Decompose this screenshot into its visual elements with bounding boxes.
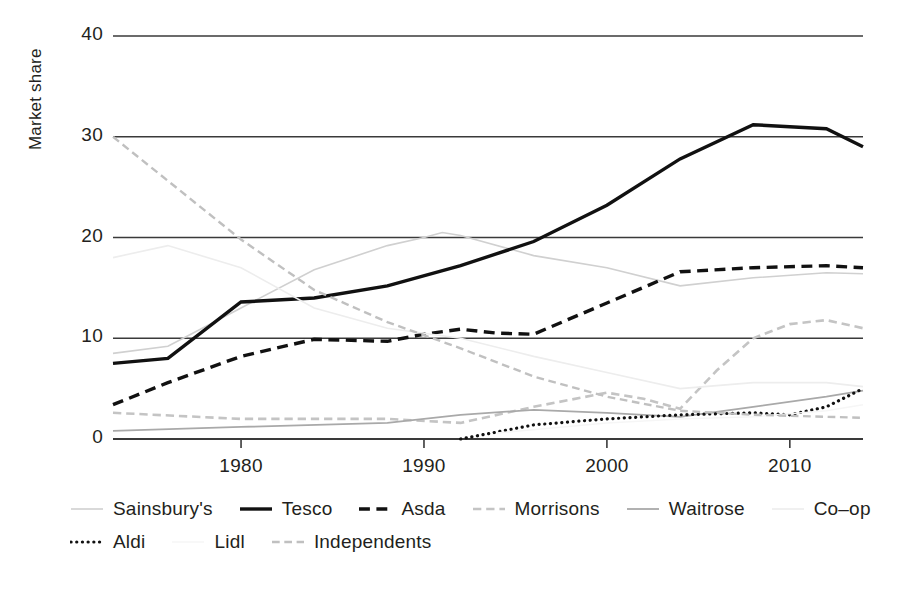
series-line-waitrose xyxy=(113,391,863,431)
legend-row: AldiLidlIndependents xyxy=(70,525,900,558)
legend-swatch-sainsbury-s-icon xyxy=(70,502,104,516)
legend-label-lidl: Lidl xyxy=(214,531,244,553)
legend-item-co-op[interactable]: Co–op xyxy=(771,498,871,520)
legend-swatch-morrisons-icon xyxy=(472,502,506,516)
legend-label-independents: Independents xyxy=(314,531,432,553)
series-line-asda xyxy=(113,266,863,405)
x-tick-label-2000: 2000 xyxy=(567,455,647,477)
legend-item-morrisons[interactable]: Morrisons xyxy=(472,498,600,520)
y-tick-label-40: 40 xyxy=(55,23,103,45)
legend-row: Sainsbury'sTescoAsdaMorrisonsWaitroseCo–… xyxy=(70,492,900,525)
market-share-line-chart: Market share 010203040 1980199020002010 … xyxy=(0,0,918,592)
x-tick-label-1990: 1990 xyxy=(384,455,464,477)
chart-legend: Sainsbury'sTescoAsdaMorrisonsWaitroseCo–… xyxy=(70,492,900,558)
y-tick-label-20: 20 xyxy=(55,225,103,247)
y-axis-label: Market share xyxy=(26,0,46,150)
x-axis-ticks xyxy=(241,439,790,448)
legend-label-morrisons: Morrisons xyxy=(515,498,600,520)
legend-label-sainsbury-s: Sainsbury's xyxy=(113,498,213,520)
legend-swatch-tesco-icon xyxy=(239,502,273,516)
legend-label-co-op: Co–op xyxy=(814,498,871,520)
legend-swatch-co-op-icon xyxy=(771,502,805,516)
legend-item-lidl[interactable]: Lidl xyxy=(171,531,244,553)
legend-label-aldi: Aldi xyxy=(113,531,145,553)
legend-item-aldi[interactable]: Aldi xyxy=(70,531,145,553)
legend-item-asda[interactable]: Asda xyxy=(358,498,445,520)
legend-item-sainsbury-s[interactable]: Sainsbury's xyxy=(70,498,213,520)
legend-item-tesco[interactable]: Tesco xyxy=(239,498,333,520)
legend-label-asda: Asda xyxy=(401,498,445,520)
legend-swatch-asda-icon xyxy=(358,502,392,516)
legend-swatch-independents-icon xyxy=(271,535,305,549)
series-line-sainsbury-s xyxy=(113,233,863,354)
series-layer xyxy=(113,125,863,439)
y-tick-label-30: 30 xyxy=(55,124,103,146)
legend-item-waitrose[interactable]: Waitrose xyxy=(626,498,745,520)
legend-swatch-lidl-icon xyxy=(171,535,205,549)
legend-item-independents[interactable]: Independents xyxy=(271,531,432,553)
legend-label-waitrose: Waitrose xyxy=(669,498,745,520)
y-tick-label-10: 10 xyxy=(55,325,103,347)
x-tick-label-2010: 2010 xyxy=(750,455,830,477)
legend-swatch-aldi-icon xyxy=(70,535,104,549)
legend-label-tesco: Tesco xyxy=(282,498,333,520)
legend-swatch-waitrose-icon xyxy=(626,502,660,516)
x-tick-label-1980: 1980 xyxy=(201,455,281,477)
y-tick-label-0: 0 xyxy=(55,426,103,448)
series-line-tesco xyxy=(113,125,863,364)
gridlines xyxy=(113,36,863,439)
